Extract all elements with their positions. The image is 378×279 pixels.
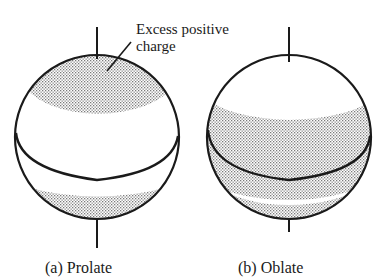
north-cap-charge-region <box>15 55 180 114</box>
oblate-caption: (b) Oblate <box>238 259 303 277</box>
equatorial-band-charge-region <box>205 98 375 200</box>
prolate-panel: (a) Prolate <box>15 27 180 277</box>
prolate-caption: (a) Prolate <box>45 259 112 277</box>
oblate-panel: (b) Oblate <box>205 27 375 277</box>
annotation-line-1: Excess positive <box>136 21 229 37</box>
nucleus-shapes-diagram: (a) Prolate Excess positive charge (b) O… <box>0 0 378 279</box>
prolate-equator <box>16 133 178 180</box>
annotation-line-2: charge <box>136 38 176 54</box>
